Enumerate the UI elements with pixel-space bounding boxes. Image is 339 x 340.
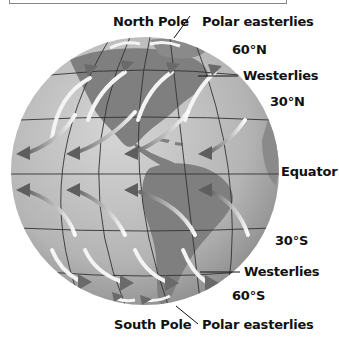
label-north-pole: North Pole	[113, 14, 189, 29]
label-60s: 60°S	[232, 288, 265, 303]
label-westerlies-north: Westerlies	[243, 68, 318, 83]
label-polar-easterlies-north: Polar easterlies	[202, 14, 314, 29]
label-westerlies-south: Westerlies	[244, 264, 319, 279]
label-60n: 60°N	[232, 42, 267, 57]
label-south-pole: South Pole	[114, 317, 191, 332]
label-polar-easterlies-south: Polar easterlies	[202, 317, 314, 332]
label-30n: 30°N	[270, 94, 305, 109]
label-equator: Equator	[281, 164, 337, 179]
label-30s: 30°S	[275, 233, 308, 248]
